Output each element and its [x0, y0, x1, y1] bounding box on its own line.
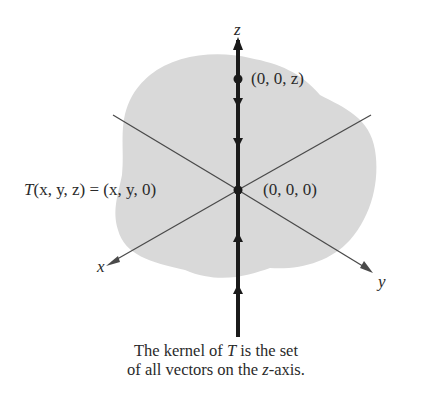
y-axis-arrowhead-icon [360, 261, 373, 273]
caption-line-1: The kernel of T is the set [0, 342, 432, 361]
point-0-0-z-label: (0, 0, z) [251, 70, 304, 87]
x-axis-arrowhead-icon [106, 256, 120, 266]
transformation-result: (x, y, 0) [103, 180, 156, 199]
y-axis-label: y [378, 273, 386, 290]
xy-plane-region [115, 54, 376, 277]
x-axis-label: x [97, 258, 105, 275]
origin-marker [234, 186, 243, 195]
figure-caption: The kernel of T is the set of all vector… [0, 342, 432, 380]
z-up-arrow-icon [233, 284, 243, 294]
kernel-diagram: z x y (0, 0, z) (0, 0, 0) T(x, y, z) = (… [0, 0, 432, 405]
transformation-args: (x, y, z) [33, 180, 85, 199]
transformation-equals: = [89, 180, 99, 199]
z-axis-label: z [234, 21, 241, 38]
origin-label: (0, 0, 0) [263, 181, 317, 198]
transformation-equation: T(x, y, z) = (x, y, 0) [24, 181, 156, 198]
point-0-0-z-marker [234, 75, 243, 84]
caption-line-2: of all vectors on the z-axis. [0, 361, 432, 380]
